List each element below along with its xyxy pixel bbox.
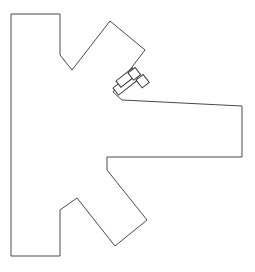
line-drawing (0, 0, 255, 272)
drawing-canvas (0, 0, 255, 272)
